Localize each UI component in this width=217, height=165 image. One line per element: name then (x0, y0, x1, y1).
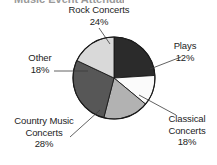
pie-label-country-music-concerts-percent: 28% (2, 138, 86, 150)
pie-label-country-music-concerts-line1: Country Music (2, 115, 86, 127)
pie-label-classical-concerts-line1: Classical (158, 113, 216, 125)
pie-label-other: Other 18% (16, 52, 64, 75)
pie-label-rock-concerts-name: Rock Concerts (56, 4, 142, 16)
pie-label-other-percent: 18% (16, 64, 64, 76)
pie-label-plays: Plays 12% (160, 40, 210, 63)
clipped-chart-title: Music Event Attendance (14, 0, 124, 3)
pie-label-country-music-concerts: Country Music Concerts 28% (2, 115, 86, 150)
pie-slice-rock-concerts[interactable] (114, 37, 155, 78)
pie-label-plays-percent: 12% (160, 52, 210, 64)
pie-chart-figure: Music Event Attendance Rock Concerts 24%… (0, 0, 217, 165)
pie-label-other-name: Other (16, 52, 64, 64)
pie-label-rock-concerts: Rock Concerts 24% (56, 4, 142, 27)
pie-label-rock-concerts-percent: 24% (56, 16, 142, 28)
pie-label-classical-concerts-line2: Concerts (158, 125, 216, 137)
pie-label-classical-concerts-percent: 18% (158, 136, 216, 148)
pie-label-plays-name: Plays (160, 40, 210, 52)
pie-label-classical-concerts: Classical Concerts 18% (158, 113, 216, 148)
pie-label-country-music-concerts-line2: Concerts (2, 127, 86, 139)
